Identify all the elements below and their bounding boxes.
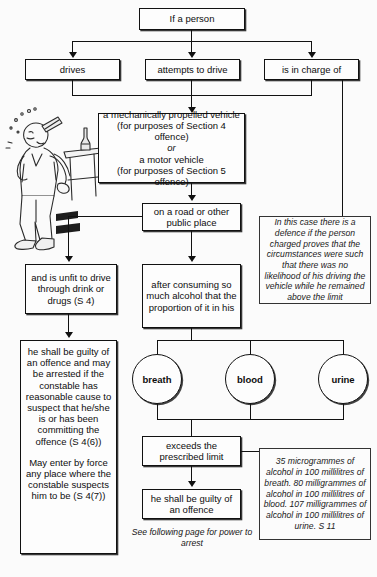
node-guilty-label: he shall be guilty of an offence (145, 493, 238, 515)
node-after-consuming: after consuming so much alcohol that the… (142, 264, 241, 328)
arrow-to-road (188, 195, 196, 201)
connector-breath-down (157, 404, 158, 420)
vehicle-or: or (167, 142, 175, 153)
node-if-a-person: If a person (139, 8, 245, 30)
node-on-a-road: on a road or other public place (142, 203, 241, 231)
node-attempts-label: attempts to drive (157, 64, 227, 75)
connector-exceeds-to-limits (241, 451, 259, 452)
connector-to-urine (343, 340, 344, 354)
vehicle-line-1: a mechanically propelled vehicle (103, 109, 240, 120)
connector-drives-down (72, 80, 73, 96)
flowchart-page: If a person drives attempts to drive is … (0, 0, 377, 577)
node-breath: breath (132, 354, 182, 404)
arrow-to-incharge (308, 52, 316, 58)
connector-to-exceeds (191, 419, 192, 436)
node-urine-label: urine (331, 374, 354, 385)
arrow-to-guilty-arrest (65, 332, 73, 338)
node-may-enter-label: May enter by force any place where the c… (23, 457, 114, 502)
connector-road-down (191, 231, 192, 258)
node-unfit-label: and is unfit to drive through drink or d… (28, 272, 114, 306)
connector-consuming-down (191, 328, 192, 340)
node-exceeds-label: exceeds the prescribed limit (145, 440, 238, 462)
node-blood-label: blood (237, 374, 263, 385)
node-exceeds-limit: exceeds the prescribed limit (142, 436, 241, 466)
connector-road-left (68, 216, 142, 217)
arrow-to-guilty (188, 481, 196, 487)
connector-merge-samples (157, 419, 343, 420)
connector-to-breath (157, 340, 158, 354)
note-defence-text: In this case there is a defence if the p… (263, 217, 367, 303)
node-on-a-road-label: on a road or other public place (145, 206, 238, 228)
node-vehicle-definition: a mechanically propelled vehicle (for pu… (98, 113, 245, 183)
node-guilty-of-offence: he shall be guilty of an offence (142, 489, 241, 519)
caption-text: See following page for power to arrest (131, 527, 253, 548)
node-in-charge-label: is in charge of (282, 64, 341, 75)
arrow-to-drives (69, 52, 77, 58)
arrow-to-afterconsuming (188, 256, 196, 262)
connector-to-blood (250, 340, 251, 354)
vehicle-line-3: a motor vehicle (139, 154, 203, 165)
vehicle-line-4: (for purposes of Section 5 offence) (101, 165, 242, 187)
node-unfit-to-drive: and is unfit to drive through drink or d… (25, 264, 117, 314)
connector-left-down (68, 216, 69, 258)
node-blood: blood (225, 354, 275, 404)
connector-merge-bar (72, 95, 312, 96)
connector-incharge-rail (342, 80, 343, 216)
node-guilty-and-arrest: he shall be guilty of an offence and may… (20, 340, 117, 554)
node-breath-label: breath (142, 374, 171, 385)
illustration-man-drinking (2, 104, 106, 252)
connector-urine-down (343, 404, 344, 420)
connector-unfit-down (68, 314, 69, 334)
arrow-to-unfit (65, 256, 73, 262)
node-guilty-arrest-label: he shall be guilty of an offence and may… (23, 346, 114, 447)
note-limits-text: 35 microgrammes of alcohol in 100 millil… (263, 456, 367, 531)
node-after-consuming-label: after consuming so much alcohol that the… (145, 279, 238, 313)
arrow-to-attempts (188, 52, 196, 58)
note-defence: In this case there is a defence if the p… (259, 216, 371, 304)
node-is-in-charge-of: is in charge of (264, 59, 359, 80)
connector-incharge-down (311, 80, 312, 96)
node-drives-label: drives (60, 64, 85, 75)
caption-see-following-page: See following page for power to arrest (131, 527, 253, 548)
node-if-a-person-label: If a person (170, 13, 215, 24)
node-attempts-to-drive: attempts to drive (145, 59, 240, 80)
vehicle-line-2: (for purposes of Section 4 offence) (101, 120, 242, 142)
connector-ifperson-down (191, 30, 192, 41)
node-drives: drives (25, 59, 120, 80)
connector-blood-down (250, 404, 251, 420)
note-prescribed-limits: 35 microgrammes of alcohol in 100 millil… (259, 448, 371, 540)
node-urine: urine (318, 354, 368, 404)
